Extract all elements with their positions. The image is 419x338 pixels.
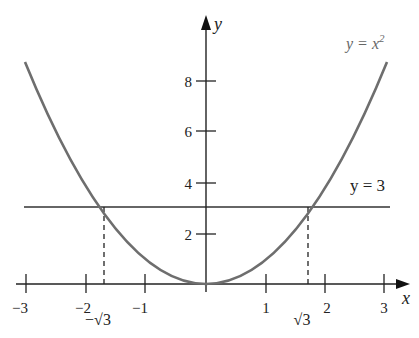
x-tick-label: −3 bbox=[12, 300, 28, 316]
line-label: y = 3 bbox=[350, 176, 385, 195]
pos-sqrt3-label: √3 bbox=[294, 311, 311, 328]
x-axis-label: x bbox=[401, 288, 410, 308]
x-tick-label: −1 bbox=[132, 300, 148, 316]
plot-area: −3 −2 −1 1 2 3 −√3 √3 2 4 6 8 x y y = x2… bbox=[0, 0, 419, 338]
x-tick-label: 2 bbox=[323, 300, 331, 316]
x-tick-label: 3 bbox=[380, 300, 388, 316]
neg-sqrt3-label: −√3 bbox=[85, 311, 111, 328]
y-tick-label: 2 bbox=[185, 227, 193, 243]
y-axis-label: y bbox=[212, 14, 222, 34]
y-tick-label: 6 bbox=[185, 124, 193, 140]
chart: −3 −2 −1 1 2 3 −√3 √3 2 4 6 8 x y y = x2… bbox=[0, 0, 419, 338]
y-tick-label: 4 bbox=[185, 176, 193, 192]
y-tick-label: 8 bbox=[185, 74, 193, 90]
parabola-label: y = x2 bbox=[344, 32, 385, 53]
x-tick-label: 1 bbox=[262, 300, 270, 316]
y-axis-arrow-icon bbox=[201, 15, 211, 30]
